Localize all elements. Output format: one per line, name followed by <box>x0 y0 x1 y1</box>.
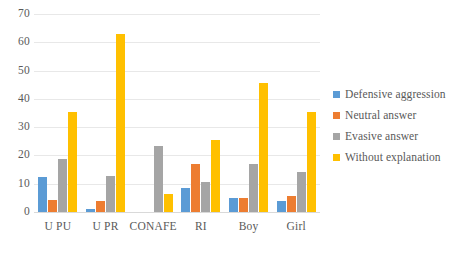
bar-groups <box>34 14 320 212</box>
x-tick-label: Boy <box>225 214 273 238</box>
bar[interactable] <box>239 198 248 212</box>
bar[interactable] <box>229 198 238 212</box>
bar-group <box>177 14 225 212</box>
legend-swatch-icon <box>333 133 340 140</box>
x-tick-label: RI <box>177 214 225 238</box>
axis-baseline <box>34 212 320 213</box>
y-tick-label: 0 <box>2 206 30 218</box>
bar[interactable] <box>181 188 190 212</box>
legend-item[interactable]: Without explanation <box>333 147 458 168</box>
y-tick-label: 10 <box>2 178 30 190</box>
x-axis: U PUU PRCONAFERIBoyGirl <box>34 214 320 238</box>
bar[interactable] <box>164 194 173 212</box>
bar[interactable] <box>191 164 200 212</box>
bar-group <box>82 14 130 212</box>
bar[interactable] <box>96 201 105 212</box>
bar[interactable] <box>259 83 268 212</box>
x-tick-label: CONAFE <box>129 214 177 238</box>
bar[interactable] <box>116 34 125 212</box>
y-tick-label: 70 <box>2 8 30 20</box>
bar-group <box>34 14 82 212</box>
bar[interactable] <box>307 112 316 212</box>
legend-item[interactable]: Defensive aggression <box>333 84 458 105</box>
bar[interactable] <box>249 164 258 212</box>
y-tick-label: 40 <box>2 93 30 105</box>
bar[interactable] <box>297 172 306 212</box>
y-tick-label: 20 <box>2 150 30 162</box>
legend-label: Without explanation <box>345 152 441 164</box>
bar-chart: 706050403020100 U PUU PRCONAFERIBoyGirl … <box>0 0 458 254</box>
bar[interactable] <box>48 200 57 212</box>
bar[interactable] <box>211 140 220 212</box>
plot-wrapper: 706050403020100 U PUU PRCONAFERIBoyGirl <box>0 0 330 254</box>
bar[interactable] <box>287 196 296 212</box>
legend-swatch-icon <box>333 154 340 161</box>
legend-label: Evasive answer <box>345 131 418 143</box>
y-tick-label: 30 <box>2 121 30 133</box>
x-tick-label: Girl <box>272 214 320 238</box>
bar[interactable] <box>201 182 210 212</box>
bar-group <box>225 14 273 212</box>
legend-item[interactable]: Neutral answer <box>333 105 458 126</box>
bar[interactable] <box>277 201 286 212</box>
legend-swatch-icon <box>333 112 340 119</box>
x-tick-label: U PU <box>34 214 82 238</box>
plot-area <box>34 14 320 212</box>
bar[interactable] <box>86 209 95 212</box>
chart-legend: Defensive aggressionNeutral answerEvasiv… <box>333 84 458 168</box>
bar-group <box>272 14 320 212</box>
y-tick-label: 60 <box>2 37 30 49</box>
bar[interactable] <box>106 176 115 212</box>
legend-label: Defensive aggression <box>345 89 446 101</box>
bar[interactable] <box>38 177 47 212</box>
bar[interactable] <box>154 146 163 212</box>
bar[interactable] <box>68 112 77 212</box>
x-tick-label: U PR <box>82 214 130 238</box>
legend-swatch-icon <box>333 91 340 98</box>
y-axis: 706050403020100 <box>0 0 30 254</box>
legend-label: Neutral answer <box>345 110 416 122</box>
bar[interactable] <box>58 159 67 212</box>
y-tick-label: 50 <box>2 65 30 77</box>
legend-item[interactable]: Evasive answer <box>333 126 458 147</box>
bar-group <box>129 14 177 212</box>
